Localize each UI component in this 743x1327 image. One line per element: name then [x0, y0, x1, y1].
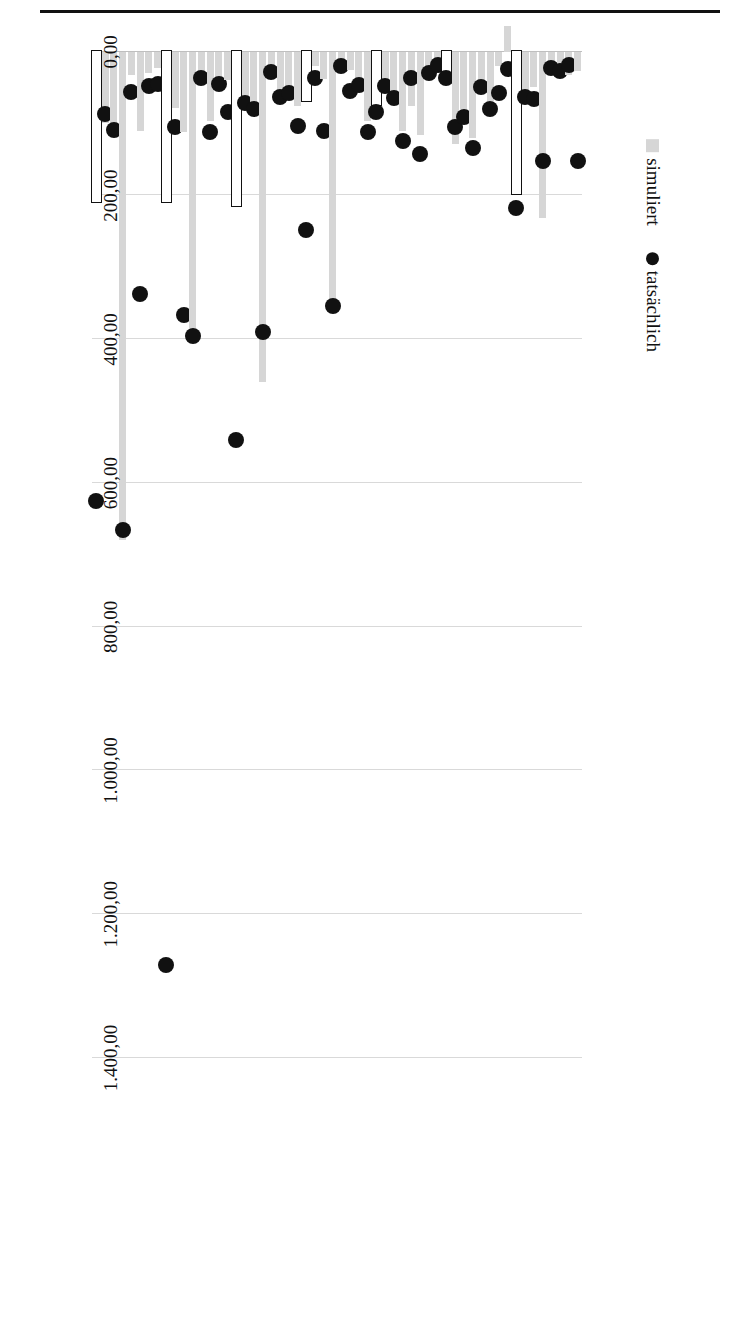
legend-label: simuliert — [642, 158, 664, 226]
chart-plot-wrapper: DESISENLLVFIESATDESISENLLVFIESATDESISENL… — [92, 0, 652, 1058]
legend-dot-icon — [647, 252, 660, 265]
value-tick-label: 600,00 — [100, 428, 122, 538]
group-axis-labels: Paar, drei oder mehr KinderPaar, 2 Kinde… — [92, 0, 582, 1058]
value-tick-label: 0,00 — [100, 0, 122, 107]
value-tick-label: 1.400,00 — [100, 1003, 122, 1113]
legend-bar-icon — [647, 139, 660, 152]
value-tick-label: 400,00 — [100, 284, 122, 394]
chart-legend: simulierttatsächlich — [642, 139, 664, 352]
legend-item-tatsaechlich[interactable]: tatsächlich — [642, 252, 664, 352]
value-tick-label: 1.000,00 — [100, 716, 122, 826]
legend-item-simuliert[interactable]: simuliert — [642, 139, 664, 226]
chart-figure: DESISENLLVFIESATDESISENLLVFIESATDESISENL… — [92, 0, 652, 1058]
value-tick-label: 1.200,00 — [100, 859, 122, 969]
value-tick-label: 200,00 — [100, 141, 122, 251]
legend-label: tatsächlich — [642, 271, 664, 352]
value-tick-label: 800,00 — [100, 572, 122, 682]
value-axis-tick-labels: 1.400,001.200,001.000,00800,00600,00400,… — [92, 0, 142, 1058]
